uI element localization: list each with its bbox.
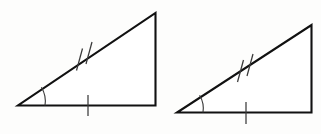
geometry-canvas	[0, 0, 321, 134]
geometry-figure	[0, 0, 321, 134]
